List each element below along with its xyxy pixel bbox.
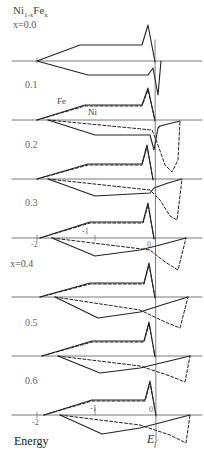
ni-minority-curve [52,238,186,270]
fermi-level-line [155,40,156,440]
tick-label-minus1: -1 [82,227,89,236]
fermi-label: Ef [147,432,157,448]
panel-label-x0.2: 0.2 [25,139,38,150]
panel-label-x0.5: 0.5 [25,317,38,328]
tick-label-zero: 0 [147,240,151,249]
majority-curve [37,25,155,62]
tick-label-minus2-bottom: -2 [32,418,39,427]
panel-x0.3 [12,203,202,270]
fe-minority-curve [60,415,190,434]
panel-label-x0.1: 0.1 [25,79,38,90]
ni-minority-curve [55,297,188,328]
ni-majority-curve [37,147,153,179]
panel-x0.4 [12,263,202,328]
panel-label-x0.3: 0.3 [25,197,38,208]
x-axis-label: Energy [14,434,48,449]
fe-majority-curve [37,145,153,180]
tick-label-minus1-bottom: -1 [90,404,97,413]
figure-title: Ni1-xFex [13,4,48,19]
ni-majority-curve [40,265,155,297]
minority-curve [37,61,161,95]
dos-figure [0,0,204,461]
tick-label-minus2: -2 [31,240,38,249]
fe-minority-curve [48,120,180,150]
tick-label-zero-bottom: 0 [149,405,153,414]
fe-majority-curve [44,381,156,416]
panel-x0.2 [12,145,202,220]
ni-minority-curve [60,415,190,443]
fe-majority-curve [40,203,154,239]
panel-x0.5 [12,322,202,382]
panel-label-x0.0: x=0.0 [13,19,36,30]
panel-x0.1 [12,88,202,172]
ni-minority-curve [58,356,190,382]
ni-curve-label: Ni [88,107,97,117]
fe-curve-label: Fe [57,96,66,106]
ni-majority-curve [42,324,155,356]
panel-label-x0.6: 0.6 [25,375,38,386]
panel-x0.0 [12,25,202,95]
panel-label-x0.4: x=0.4 [10,258,33,269]
ni-majority-curve [44,383,156,415]
